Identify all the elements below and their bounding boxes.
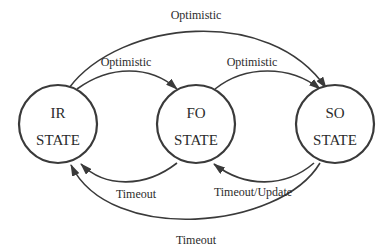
state-ir: IR STATE xyxy=(19,85,97,163)
edge-so-to-fo xyxy=(214,163,314,182)
state-so-name: SO xyxy=(325,105,344,121)
state-fo-name: FO xyxy=(186,105,205,121)
label-fo-to-so: Optimistic xyxy=(227,55,278,69)
edge-fo-to-so xyxy=(215,71,320,89)
edge-fo-to-ir xyxy=(81,163,177,182)
label-fo-to-ir: Timeout xyxy=(116,187,157,201)
label-ir-to-fo: Optimistic xyxy=(101,55,152,69)
state-ir-name: IR xyxy=(51,105,66,121)
label-ir-to-so: Optimistic xyxy=(171,8,222,22)
edge-ir-to-fo xyxy=(77,71,177,89)
state-fo-suffix: STATE xyxy=(174,132,218,148)
state-fo: FO STATE xyxy=(157,85,235,163)
state-diagram: Optimistic Optimistic Optimistic Timeout… xyxy=(0,0,389,251)
label-so-to-fo: Timeout/Update xyxy=(214,185,292,199)
label-so-to-ir: Timeout xyxy=(176,233,217,247)
state-so-suffix: STATE xyxy=(313,132,357,148)
state-so: SO STATE xyxy=(296,85,374,163)
state-ir-suffix: STATE xyxy=(36,132,80,148)
